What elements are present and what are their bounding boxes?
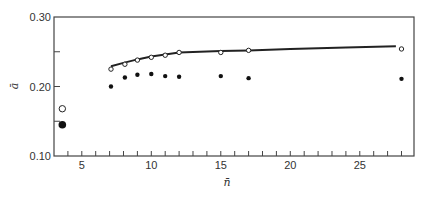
open-circle-point bbox=[109, 67, 113, 71]
open-circle-point bbox=[135, 58, 139, 62]
x-tick-label: 15 bbox=[215, 159, 227, 171]
x-tick-label: 10 bbox=[145, 159, 157, 171]
filled-circle-point bbox=[163, 74, 167, 78]
filled-circle-point bbox=[135, 72, 139, 76]
y-axis-ticks bbox=[54, 52, 60, 122]
x-axis-ticks bbox=[68, 151, 402, 156]
open-circle-point bbox=[219, 50, 223, 54]
open-circle-point bbox=[177, 50, 181, 54]
open-circle-point bbox=[123, 62, 127, 66]
open-circle-point bbox=[399, 47, 403, 51]
y-axis-label: ā bbox=[8, 83, 21, 90]
open-circle-point bbox=[246, 48, 250, 52]
open-circle-series bbox=[59, 47, 404, 112]
filled-circle-point bbox=[246, 76, 250, 80]
filled-circle-point bbox=[149, 72, 153, 76]
filled-circle-point bbox=[123, 75, 127, 79]
y-tick-label: 0.10 bbox=[30, 150, 51, 162]
y-axis-tick-labels: 0.100.200.30 bbox=[30, 11, 51, 162]
filled-circle-point bbox=[399, 77, 403, 81]
filled-circle-series bbox=[59, 72, 404, 129]
x-tick-label: 25 bbox=[354, 159, 366, 171]
plot-frame bbox=[54, 17, 414, 156]
filled-circle-point bbox=[177, 75, 181, 79]
open-circle-point bbox=[149, 55, 153, 59]
x-tick-label: 20 bbox=[284, 159, 296, 171]
open-circle-point bbox=[59, 106, 65, 112]
x-tick-label: 5 bbox=[79, 159, 85, 171]
x-axis-label: n̄ bbox=[223, 176, 230, 189]
open-circle-point bbox=[163, 53, 167, 57]
scatter-chart: 510152025 0.100.200.30 n̄ ā bbox=[0, 0, 426, 197]
x-axis-tick-labels: 510152025 bbox=[79, 159, 366, 171]
filled-circle-point bbox=[59, 121, 67, 129]
filled-circle-point bbox=[219, 74, 223, 78]
y-tick-label: 0.30 bbox=[30, 11, 51, 23]
filled-circle-point bbox=[109, 84, 113, 88]
y-tick-label: 0.20 bbox=[30, 81, 51, 93]
